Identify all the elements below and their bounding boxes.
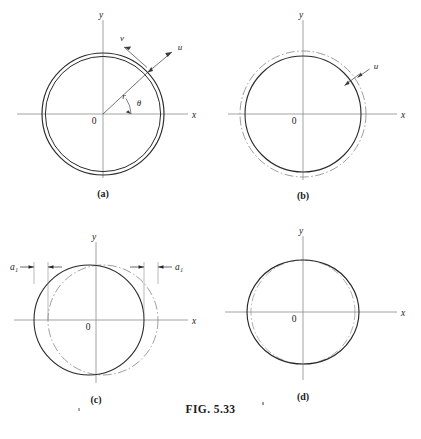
theta-label: θ: [137, 98, 142, 108]
figure-caption: FIG. 5.33: [0, 403, 421, 427]
panel-b: y x 0 u (b): [211, 0, 421, 220]
axis-label-x: x: [191, 110, 197, 120]
u-label: u: [374, 61, 379, 71]
axes-panel-c: [14, 242, 188, 383]
axis-label-x: x: [400, 308, 406, 318]
u-label: u: [178, 42, 183, 52]
figure-5-33: y x 0 r θ u v (a) y x: [0, 0, 421, 439]
theta-arc: [126, 99, 131, 115]
panel-d: y x 0 (d): [211, 220, 421, 420]
axes-panel-b: [228, 20, 397, 180]
origin-label: 0: [92, 116, 97, 126]
u-arrow: [148, 52, 173, 73]
dimension-arrows-left: [20, 265, 62, 269]
v-label: v: [120, 33, 124, 43]
radius-label: r: [122, 91, 126, 101]
origin-label: 0: [292, 314, 297, 324]
panel-label-b: (b): [297, 190, 309, 202]
v-arrow: [124, 47, 147, 68]
axis-label-x: x: [191, 316, 197, 326]
offset-label-right: a₁: [175, 262, 183, 272]
panel-label-a: (a): [97, 188, 109, 200]
dimension-arrows-right: [130, 265, 172, 269]
axis-label-x: x: [400, 110, 406, 120]
axis-label-y: y: [91, 232, 97, 242]
panel-a: y x 0 r θ u v (a): [0, 0, 211, 220]
offset-label-left: a₁: [10, 262, 18, 272]
origin-label: 0: [292, 116, 297, 126]
axis-label-y: y: [98, 10, 104, 20]
panel-label-d: (d): [297, 391, 309, 403]
axis-label-y: y: [298, 10, 304, 20]
origin-label: 0: [86, 322, 91, 332]
axis-label-y: y: [298, 226, 304, 236]
panel-c: y x 0 a₁ a₁ (c): [0, 220, 211, 420]
